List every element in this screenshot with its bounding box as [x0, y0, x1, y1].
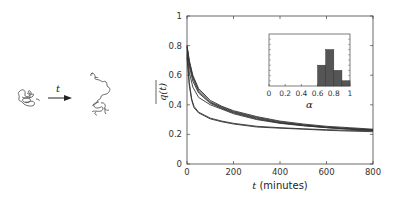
inset-x-tick-label: 1 — [348, 89, 353, 98]
inset-x-tick-label: 0 — [267, 89, 272, 98]
extended-polymer-icon — [91, 73, 110, 115]
inset-x-tick-label: 0.8 — [328, 89, 340, 98]
histogram-bar — [318, 65, 326, 86]
y-axis-title: q(t) — [157, 83, 168, 101]
compact-polymer-icon — [18, 90, 39, 106]
x-tick-label: 0 — [184, 167, 189, 177]
histogram-bar — [342, 81, 350, 86]
arrow-label: t — [56, 83, 61, 94]
histogram-bar — [334, 70, 342, 86]
y-tick-label: 1 — [177, 11, 182, 21]
inset-histogram: 00.20.40.60.81 α — [267, 34, 353, 110]
y-tick-label: 0.4 — [168, 100, 182, 110]
y-tick-label: 0.2 — [168, 129, 182, 139]
x-tick-label: 800 — [365, 167, 381, 177]
x-axis-title: t (minutes) — [252, 180, 308, 191]
inset-x-tick-label: 0.4 — [295, 89, 307, 98]
schematic: t — [18, 73, 110, 115]
histogram-bar — [326, 50, 334, 86]
right-arrow-icon — [48, 95, 72, 101]
inset-x-axis-title: α — [306, 99, 313, 110]
y-tick-label: 0 — [177, 159, 182, 169]
figure: t 0200400600800 00.20.40.60.81 t (minute… — [0, 0, 398, 203]
x-tick-label: 200 — [225, 167, 241, 177]
y-tick-label: 0.6 — [168, 70, 182, 80]
y-axis-title-group: q(t) — [156, 80, 168, 104]
inset-x-tick-label: 0.6 — [312, 89, 324, 98]
x-tick-label: 600 — [318, 167, 334, 177]
x-tick-label: 400 — [272, 167, 288, 177]
x-axis-title-unit: (minutes) — [256, 180, 308, 191]
inset-x-tick-label: 0.2 — [279, 89, 291, 98]
y-tick-label: 0.8 — [168, 41, 182, 51]
